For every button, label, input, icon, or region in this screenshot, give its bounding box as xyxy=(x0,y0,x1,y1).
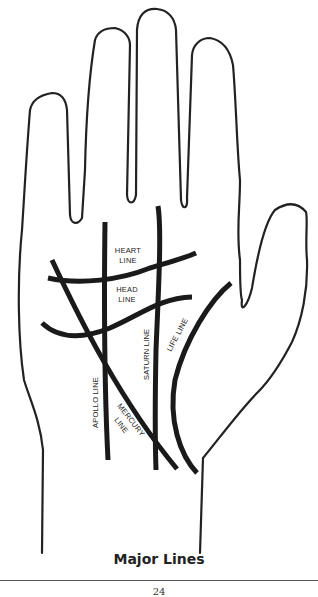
footer-rule xyxy=(0,580,318,581)
saturn-line xyxy=(155,206,159,470)
life-line xyxy=(173,283,231,473)
heart-line-label: HEART xyxy=(115,246,142,255)
figure-caption: Major Lines xyxy=(0,551,318,567)
head-line-label: HEAD xyxy=(116,285,138,294)
apollo-line xyxy=(104,222,108,460)
head-line xyxy=(42,297,192,336)
page-number: 24 xyxy=(0,586,318,597)
saturn-line-label: SATURN LINE xyxy=(142,329,151,380)
apollo-line-label: APOLLO LINE xyxy=(91,377,100,428)
heart-line-label-2: LINE xyxy=(119,256,136,265)
head-line-label-2: LINE xyxy=(118,295,135,304)
